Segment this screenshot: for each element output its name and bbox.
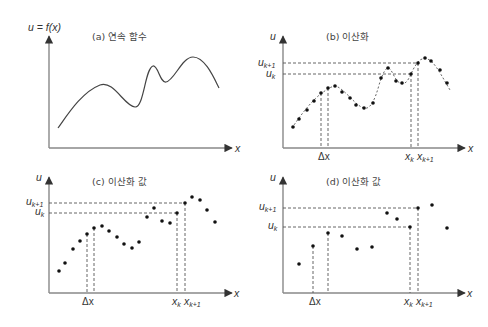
xk-label: xk [403, 295, 413, 308]
u-k-label: uk [268, 219, 278, 232]
y-axis-label: u [270, 30, 276, 42]
xk1-label: xk+1 [183, 295, 201, 308]
panel-title: (a) 연속 함수 [92, 31, 147, 42]
xk1-label: xk+1 [415, 295, 433, 308]
panel-c-discrete-values: u x (c) 이산화 값 uk+1 uk Δx xk xk+1 [26, 171, 240, 308]
x-axis-label: x [234, 142, 241, 154]
delta-x-label: Δx [82, 296, 94, 307]
discretization-figure: u = f(x) x (a) 연속 함수 u x (b) 이산화 [0, 0, 488, 327]
dotted-curve [292, 59, 450, 128]
x-axis-label: x [467, 142, 474, 154]
sample-points [57, 195, 217, 273]
panel-b-discretization: u x (b) 이산화 uk+1 uk Δx xk xk+1 [258, 30, 474, 163]
y-axis-label: u [270, 171, 276, 183]
sample-points [291, 56, 449, 129]
continuous-curve [58, 57, 219, 128]
delta-x-label: Δx [309, 296, 321, 307]
panel-d-discrete-values: u x (d) 이산화 값 uk+1 uk Δx xk xk+1 [259, 171, 473, 308]
xk1-label: xk+1 [416, 150, 434, 163]
u-k-label: uk [35, 205, 45, 218]
panel-a-continuous-function: u = f(x) x (a) 연속 함수 [28, 21, 241, 154]
y-axis-label: u = f(x) [28, 21, 61, 33]
xk-label: xk [171, 295, 181, 308]
x-axis-label: x [233, 287, 240, 299]
u-k1-label: uk+1 [259, 200, 276, 213]
panel-title: (c) 이산화 값 [92, 176, 147, 187]
xk-label: xk [404, 150, 414, 163]
panel-title: (b) 이산화 [326, 31, 369, 42]
sample-points [297, 203, 449, 266]
x-axis-label: x [466, 287, 473, 299]
y-axis-label: u [36, 171, 42, 183]
panel-title: (d) 이산화 값 [326, 176, 381, 187]
delta-x-label: Δx [318, 151, 330, 162]
